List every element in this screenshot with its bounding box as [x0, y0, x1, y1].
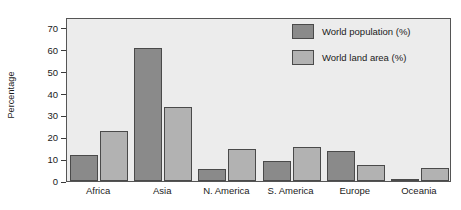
- y-axis-tick-label: 50: [47, 67, 61, 79]
- y-axis-tick: 0: [53, 176, 66, 188]
- bar: [164, 107, 192, 181]
- x-axis-tick-label: Africa: [86, 185, 110, 196]
- legend-item[interactable]: World population (%): [292, 23, 444, 40]
- bar: [293, 147, 321, 181]
- x-axis-tick-label: Europe: [339, 185, 370, 196]
- y-axis-tick-label: 30: [47, 110, 61, 122]
- bar-group: [198, 19, 256, 181]
- y-axis-tick-label: 10: [47, 154, 61, 166]
- bar-group: [134, 19, 192, 181]
- y-axis-tick: 10: [47, 154, 66, 166]
- bar: [391, 179, 419, 181]
- bar: [198, 169, 226, 181]
- bar-group: [70, 19, 128, 181]
- bar: [70, 155, 98, 181]
- y-axis-tick: 40: [47, 89, 66, 101]
- y-axis-tick: 30: [47, 110, 66, 122]
- bar: [327, 151, 355, 181]
- legend-label: World land area (%): [322, 52, 406, 63]
- bar: [263, 161, 291, 181]
- bar: [100, 131, 128, 181]
- y-axis-tick: 20: [47, 132, 66, 144]
- y-axis-tick: 60: [47, 45, 66, 57]
- y-axis-tick-label: 0: [53, 176, 61, 188]
- legend-label: World population (%): [322, 26, 411, 37]
- x-axis-labels: AfricaAsiaN. AmericaS. AmericaEuropeOcea…: [66, 185, 451, 205]
- y-axis-ticks: 010203040506070: [0, 0, 66, 210]
- y-axis-tick-label: 40: [47, 89, 61, 101]
- x-axis-tick-label: Oceania: [401, 185, 436, 196]
- x-axis-tick-label: S. America: [268, 185, 314, 196]
- bar-chart: Percentage 010203040506070 AfricaAsiaN. …: [0, 0, 461, 210]
- y-axis-tick-label: 20: [47, 132, 61, 144]
- legend-swatch-icon: [292, 50, 314, 65]
- bar: [421, 168, 449, 181]
- x-axis-tick-label: Asia: [153, 185, 171, 196]
- bar: [134, 48, 162, 181]
- legend-swatch-icon: [292, 24, 314, 39]
- bar: [228, 149, 256, 181]
- legend-item[interactable]: World land area (%): [292, 49, 444, 66]
- y-axis-tick-label: 70: [47, 23, 61, 35]
- y-axis-tick-label: 60: [47, 45, 61, 57]
- x-axis-tick-label: N. America: [203, 185, 249, 196]
- chart-legend: World population (%)World land area (%): [292, 23, 444, 75]
- y-axis-tick: 70: [47, 23, 66, 35]
- y-axis-tick: 50: [47, 67, 66, 79]
- bar: [357, 165, 385, 181]
